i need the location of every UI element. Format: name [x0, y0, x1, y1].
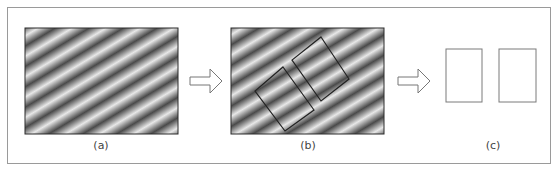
panel-b-label: (b) [300, 139, 316, 152]
panel-c-patches [446, 49, 536, 102]
arrow-right-icon [190, 69, 222, 93]
extracted-patch-2 [499, 49, 536, 102]
extracted-patch-1 [446, 49, 482, 102]
panel-c-label: (c) [486, 139, 501, 152]
panel-a-label: (a) [93, 139, 108, 152]
figure-canvas [0, 0, 559, 171]
arrow-right-icon [398, 69, 430, 93]
panel-b-grating [231, 28, 384, 134]
panel-a-grating [25, 28, 178, 134]
